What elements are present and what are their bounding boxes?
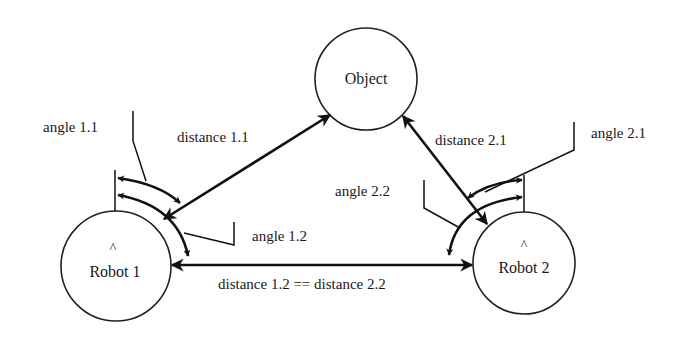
robot-2-label: Robot 2 xyxy=(498,259,549,276)
angle-1-2-label: angle 1.2 xyxy=(252,228,307,244)
distance-1-1-edge: distance 1.1 xyxy=(164,115,330,219)
angle-2-2-label: angle 2.2 xyxy=(335,183,390,199)
angle-2-2-callout: angle 2.2 xyxy=(335,180,460,228)
robot-1-node: ^ Robot 1 xyxy=(61,170,171,321)
distance-2-1-edge: distance 2.1 xyxy=(403,116,507,224)
robot-1-heading-marker: ^ xyxy=(110,241,117,256)
robot-2-node: ^ Robot 2 xyxy=(473,175,575,314)
angle-1-1-arc xyxy=(118,178,180,203)
angle-2-1-label: angle 2.1 xyxy=(591,125,646,141)
distance-1-2-label: distance 1.2 == distance 2.2 xyxy=(218,276,386,292)
object-label: Object xyxy=(345,70,388,88)
angle-1-1-label: angle 1.1 xyxy=(43,119,98,135)
robot-2-heading-marker: ^ xyxy=(521,238,528,253)
angle-1-1-leader xyxy=(133,111,146,181)
angle-2-1-arc xyxy=(468,180,522,198)
distance-1-2-edge: distance 1.2 == distance 2.2 xyxy=(172,265,472,292)
angle-1-2-leader xyxy=(184,222,234,245)
angle-1-1-callout: angle 1.1 xyxy=(43,111,146,181)
angle-1-2-callout: angle 1.2 xyxy=(184,222,307,245)
angle-2-2-leader xyxy=(424,180,460,228)
distance-1-1-label: distance 1.1 xyxy=(177,129,249,145)
object-node: Object xyxy=(315,28,417,130)
robot-1-label: Robot 1 xyxy=(89,263,140,280)
distance-2-1-label: distance 2.1 xyxy=(435,132,507,148)
robot-localization-diagram: Object ^ Robot 1 ^ Robot 2 distance 1.1 … xyxy=(0,0,698,339)
